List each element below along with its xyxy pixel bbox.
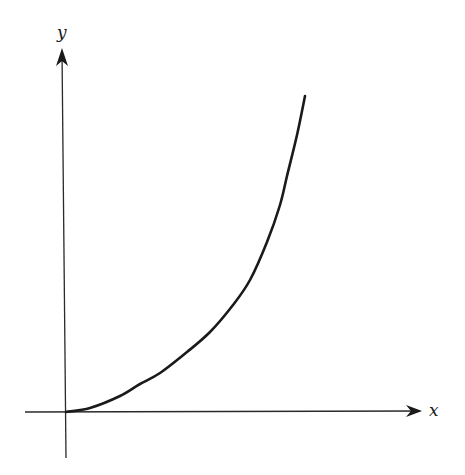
y-axis-label: y bbox=[56, 22, 67, 42]
x-axis-label: x bbox=[429, 400, 439, 420]
x-axis-line bbox=[25, 411, 420, 412]
function-graph: x y bbox=[0, 0, 465, 475]
graph-canvas: x y bbox=[0, 0, 465, 475]
function-curve bbox=[66, 96, 305, 412]
y-axis-line bbox=[62, 51, 66, 458]
y-axis: y bbox=[56, 22, 68, 458]
